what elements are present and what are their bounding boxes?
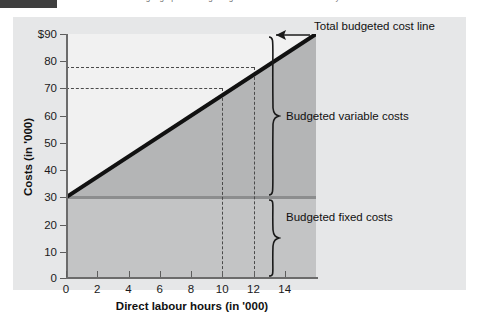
- header-caption: Exhibit: Flexible budget graph showing b…: [72, 0, 363, 2]
- guide-line-vertical-12: [254, 67, 255, 279]
- x-axis: 0 2 4 6 8 10 12 14: [66, 277, 318, 279]
- brace-budgeted-fixed-costs: [267, 199, 281, 277]
- guide-line-horizontal-78: [66, 67, 254, 68]
- y-axis-title: Costs (in '000): [20, 34, 36, 279]
- y-tick-label: 70: [44, 82, 57, 94]
- x-tick-label: 6: [157, 283, 163, 295]
- y-tick-label: 40: [44, 164, 57, 176]
- x-tick-label: 0: [63, 283, 69, 295]
- figure-panel: Costs (in '000): [13, 17, 466, 290]
- x-tick-label: 8: [188, 283, 194, 295]
- header-tab: [0, 0, 57, 8]
- y-tick-label: 20: [44, 219, 57, 231]
- header-strip: Exhibit: Flexible budget graph showing b…: [0, 0, 477, 9]
- y-tick-label: $90: [38, 28, 57, 40]
- y-axis-title-text: Costs (in '000): [22, 117, 34, 195]
- y-tick-label: 30: [44, 191, 57, 203]
- guide-line-horizontal-70: [66, 88, 222, 89]
- y-tick-label: 60: [44, 110, 57, 122]
- y-tick-label: 0: [51, 272, 57, 284]
- annotation-total-budgeted-cost-line: Total budgeted cost line: [314, 20, 435, 32]
- x-tick-label: 14: [278, 283, 291, 295]
- y-axis: [66, 34, 68, 279]
- x-tick-label: 12: [247, 283, 260, 295]
- x-tick-label: 2: [94, 283, 100, 295]
- x-axis-title: Direct labour hours (in '000): [66, 300, 318, 312]
- brace-budgeted-variable-costs: [267, 36, 281, 196]
- annotation-budgeted-variable-costs: Budgeted variable costs: [286, 110, 409, 122]
- y-tick-label: 10: [44, 246, 57, 258]
- y-tick-label: 80: [44, 55, 57, 67]
- x-tick-label: 4: [125, 283, 131, 295]
- guide-line-vertical-10: [222, 88, 223, 279]
- annotation-budgeted-fixed-costs: Budgeted fixed costs: [286, 211, 393, 223]
- x-tick-label: 10: [216, 283, 229, 295]
- y-tick-label: 50: [44, 137, 57, 149]
